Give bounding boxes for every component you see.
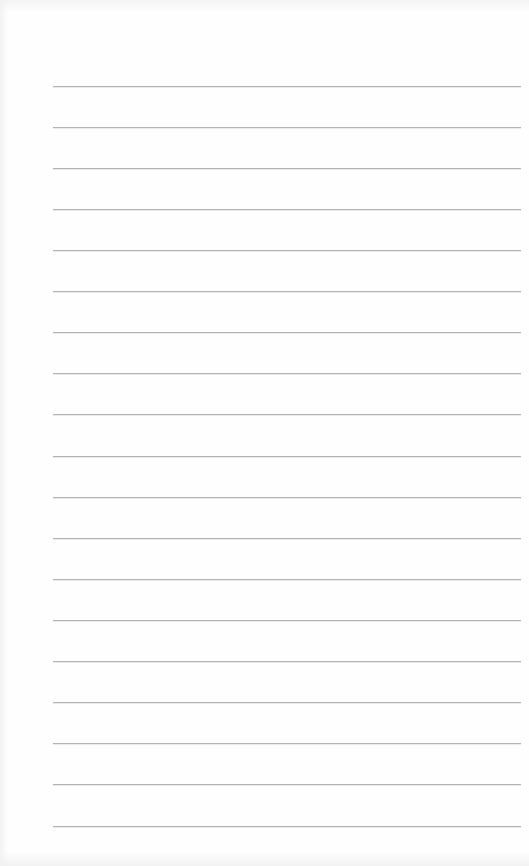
page-left-edge-shading	[0, 0, 8, 866]
ruled-line	[53, 373, 521, 374]
ruled-line	[53, 497, 521, 498]
page-bottom-edge-shading	[0, 852, 529, 866]
ruled-line	[53, 209, 521, 210]
ruled-line	[53, 168, 521, 169]
ruled-line	[53, 250, 521, 251]
ruled-line	[53, 826, 521, 827]
ruled-line	[53, 538, 521, 539]
page-top-edge-shading	[0, 0, 529, 12]
ruled-line	[53, 127, 521, 128]
ruled-line	[53, 620, 521, 621]
ruled-line	[53, 579, 521, 580]
ruled-line	[53, 702, 521, 703]
ruled-line	[53, 784, 521, 785]
ruled-line	[53, 86, 521, 87]
ruled-line	[53, 661, 521, 662]
ruled-line	[53, 743, 521, 744]
lined-paper-page	[0, 0, 529, 866]
ruled-line	[53, 456, 521, 457]
ruled-line	[53, 332, 521, 333]
ruled-line	[53, 291, 521, 292]
ruled-line	[53, 414, 521, 415]
